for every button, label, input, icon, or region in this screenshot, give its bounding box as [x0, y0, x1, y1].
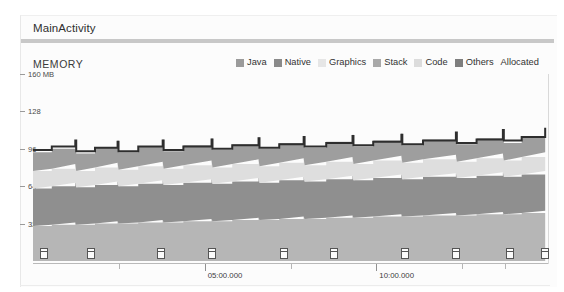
gc-events-row — [33, 246, 548, 263]
x-axis-tick-mark — [119, 264, 120, 269]
gc-event-trash-icon[interactable] — [401, 248, 409, 259]
gc-event-trash-icon[interactable] — [157, 248, 165, 259]
panel-bottom-border — [20, 285, 550, 286]
gc-event-trash-icon[interactable] — [541, 248, 549, 259]
legend-label: Allocated — [501, 58, 539, 67]
gc-event-trash-icon[interactable] — [87, 248, 95, 259]
memory-section-title: MEMORY — [33, 58, 83, 70]
memory-stacked-area-chart — [33, 74, 548, 261]
legend-item-others[interactable]: Others — [455, 58, 494, 67]
gc-event-trash-icon[interactable] — [40, 248, 48, 259]
x-axis-tick-mark — [505, 264, 506, 269]
gc-event-trash-icon[interactable] — [208, 248, 216, 259]
x-axis-tick-mark — [462, 264, 463, 269]
memory-profiler-screenshot: MainActivity MEMORY JavaNativeGraphicsSt… — [0, 0, 564, 292]
legend-swatch-icon-java — [236, 59, 244, 67]
y-axis-tick-mark — [20, 74, 25, 75]
legend-swatch-icon-graphics — [318, 59, 326, 67]
activity-section: MainActivity — [20, 22, 557, 44]
y-axis-tick-mark — [20, 149, 25, 150]
x-axis-tick-label: 10:00.000 — [379, 271, 414, 280]
x-axis-tick-mark — [205, 264, 206, 271]
x-axis-tick-label: 05:00.000 — [208, 271, 243, 280]
gc-event-trash-icon[interactable] — [506, 248, 514, 259]
gc-event-trash-icon[interactable] — [280, 248, 288, 259]
y-axis-tick-mark — [20, 111, 25, 112]
legend-swatch-icon-stack — [373, 59, 381, 67]
memory-chart-plot-area[interactable] — [33, 74, 548, 261]
legend-item-stack[interactable]: Stack — [373, 58, 407, 67]
activity-lifecycle-bar[interactable] — [21, 39, 554, 43]
legend-item-code[interactable]: Code — [414, 58, 447, 67]
legend-label: Native — [285, 58, 311, 67]
legend-label: Stack — [384, 58, 407, 67]
memory-legend: JavaNativeGraphicsStackCodeOthersAllocat… — [236, 58, 541, 67]
x-axis-tick-mark — [376, 264, 377, 271]
legend-label: Graphics — [329, 58, 366, 67]
legend-swatch-icon-others — [455, 59, 463, 67]
gc-event-trash-icon[interactable] — [330, 248, 338, 259]
plot-right-border — [548, 74, 549, 264]
legend-label: Others — [466, 58, 494, 67]
legend-item-allocated[interactable]: Allocated — [501, 58, 539, 67]
x-axis: 05:00.00010:00.000 — [33, 263, 548, 285]
legend-item-java[interactable]: Java — [236, 58, 267, 67]
activity-name-label: MainActivity — [33, 22, 96, 34]
legend-label: Code — [425, 58, 447, 67]
legend-label: Java — [247, 58, 267, 67]
legend-swatch-icon-native — [274, 59, 282, 67]
legend-item-graphics[interactable]: Graphics — [318, 58, 366, 67]
y-axis-tick-mark — [20, 186, 25, 187]
x-axis-tick-mark — [291, 264, 292, 269]
legend-swatch-icon-code — [414, 59, 422, 67]
legend-item-native[interactable]: Native — [274, 58, 311, 67]
gc-event-trash-icon[interactable] — [452, 248, 460, 259]
y-axis-tick-mark — [20, 224, 25, 225]
